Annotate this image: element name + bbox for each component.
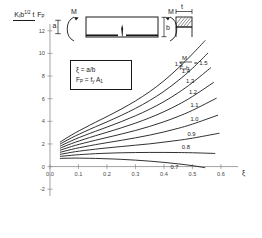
curve-label-1-1: 1.1	[190, 102, 198, 108]
y-tick-label: 6	[42, 96, 45, 102]
x-tick-label: 0.6	[217, 171, 225, 177]
x-tick-label: 0.5	[189, 171, 197, 177]
y-tick-label: 8	[42, 73, 45, 79]
curve-label-1-2: 1.2	[189, 89, 197, 95]
curve-label-0-8: 0.8	[182, 144, 190, 150]
curve-label-0-9: 0.9	[188, 131, 196, 137]
x-tick-label: 0.1	[75, 171, 83, 177]
curve-label-1-0: 1.0	[190, 116, 198, 122]
x-tick-label: 0.3	[132, 171, 140, 177]
plot-area: 024681012-20.00.10.20.30.40.50.6ξ 1.51.4…	[0, 0, 262, 238]
y-tick-label: 0	[42, 164, 45, 170]
curve-0-8	[60, 152, 215, 156]
y-tick-label: 2	[42, 141, 45, 147]
x-tick-label: 0.4	[160, 171, 168, 177]
chart-figure: KIb1/2 t FP ξ = a/b FP = fy A1 a M	[0, 0, 262, 238]
curve-label-0-7: 0.7	[170, 164, 178, 170]
y-tick-label: 10	[39, 50, 45, 56]
axes-layer: 024681012-20.00.10.20.30.40.50.6ξ	[39, 24, 245, 196]
curve-labels-layer: 1.51.41.31.21.11.00.90.80.7	[170, 61, 198, 170]
y-tick-label: -2	[40, 186, 45, 192]
x-tick-label: 0.2	[103, 171, 111, 177]
legend-equals: = 1.5	[194, 60, 208, 66]
y-tick-label: 4	[42, 118, 45, 124]
x-axis-name: ξ	[242, 169, 245, 177]
x-tick-label: 0.0	[46, 171, 54, 177]
curve-label-1-3: 1.3	[186, 78, 194, 84]
y-tick-label: 12	[39, 28, 45, 34]
legend-numerator: M	[182, 55, 187, 61]
